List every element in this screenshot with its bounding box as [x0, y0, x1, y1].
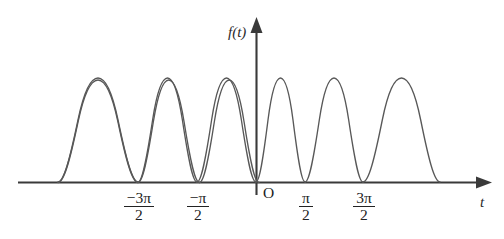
y-axis-arrow-icon [251, 17, 263, 33]
fraction-numerator: 3π [353, 190, 375, 206]
origin-label: O [263, 184, 274, 202]
x-axis-label: t [480, 194, 485, 210]
arch-right-outer [363, 78, 440, 182]
fraction-neg-3pi-over-2: −3π 2 [124, 190, 154, 224]
function-plot-figure: f(t) t O −3π 2 −π 2 π 2 3π 2 [0, 0, 504, 239]
fraction-denominator: 2 [353, 206, 375, 223]
fraction-neg-pi-over-2: −π 2 [187, 190, 210, 224]
tick-label-pi-over-2: π 2 [285, 190, 327, 224]
arch-1 [58, 80, 138, 183]
tick-label-neg-pi-over-2: −π 2 [175, 190, 221, 224]
arch-left-outer [58, 78, 138, 182]
tick-label-3pi-over-2: 3π 2 [340, 190, 388, 224]
y-axis-label: f(t) [228, 24, 246, 41]
tick-label-neg-3pi-over-2: −3π 2 [113, 190, 165, 224]
fraction-denominator: 2 [124, 206, 154, 223]
abs-cos-arches-group [58, 80, 259, 183]
x-axis-arrow-icon [476, 177, 492, 189]
arch-right-inner [305, 78, 363, 182]
curve-group [58, 78, 440, 182]
fraction-denominator: 2 [187, 206, 210, 223]
fraction-numerator: −π [187, 190, 210, 206]
plot-canvas: f(t) t [0, 0, 504, 239]
fraction-numerator: −3π [124, 190, 154, 206]
fraction-pi-over-2: π 2 [299, 190, 313, 224]
fraction-denominator: 2 [299, 206, 313, 223]
fraction-numerator: π [299, 190, 313, 206]
arch-center-right [256, 78, 305, 182]
arch-left-inner [138, 78, 197, 182]
fraction-3pi-over-2: 3π 2 [353, 190, 375, 224]
